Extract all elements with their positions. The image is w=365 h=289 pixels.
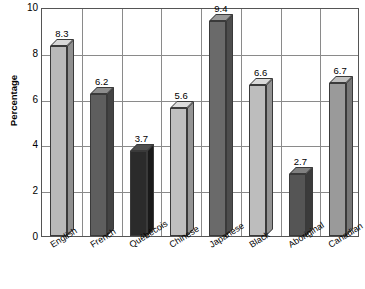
bar-front-face [329,83,346,236]
y-axis-tick-label: 6 [16,95,38,105]
bar-value-label: 2.7 [280,157,320,167]
bar-front-face [170,108,187,236]
bar [249,85,266,236]
bar-value-label: 5.6 [161,91,201,101]
bar [50,46,67,236]
plot-area: 8.36.23.75.69.46.62.76.7 [41,8,359,237]
bar-side-face [107,87,114,236]
bar-front-face [289,174,306,236]
bar-front-face [249,85,266,236]
y-axis-tick-labels: 0246810 [12,0,38,289]
bar-value-label: 6.7 [320,66,360,76]
vertical-gridline [201,9,202,236]
bar-side-face [147,144,154,236]
bar-value-label: 9.4 [201,4,241,14]
bar-side-face [226,14,233,236]
bar [209,21,226,236]
bar-value-label: 3.7 [121,134,161,144]
vertical-gridline [320,9,321,236]
y-axis-tick-label: 4 [16,140,38,150]
bar [170,108,187,236]
bar-value-label: 6.6 [241,68,281,78]
y-axis-tick-label: 2 [16,186,38,196]
y-axis-tick-label: 8 [16,49,38,59]
bar-side-face [67,39,74,236]
y-axis-tick-label: 10 [16,3,38,13]
vertical-gridline [122,9,123,236]
bar-front-face [209,21,226,236]
vertical-gridline [281,9,282,236]
bar [130,151,147,236]
vertical-gridline [161,9,162,236]
bar-front-face [90,94,107,236]
x-axis-tick-labels: EnglishFrenchQuébécoisChineseJapaneseBla… [41,238,361,289]
bar-value-label: 6.2 [82,77,122,87]
bar [289,174,306,236]
bar-side-face [187,101,194,236]
vertical-gridline [82,9,83,236]
bar-side-face [346,76,353,236]
bar [329,83,346,236]
horizontal-gridline [42,55,358,56]
bar [90,94,107,236]
y-axis-tick-label: 0 [16,232,38,242]
bar-front-face [50,46,67,236]
bar-front-face [130,151,147,236]
bar-side-face [266,78,273,236]
bar-value-label: 8.3 [42,29,82,39]
vertical-gridline [241,9,242,236]
